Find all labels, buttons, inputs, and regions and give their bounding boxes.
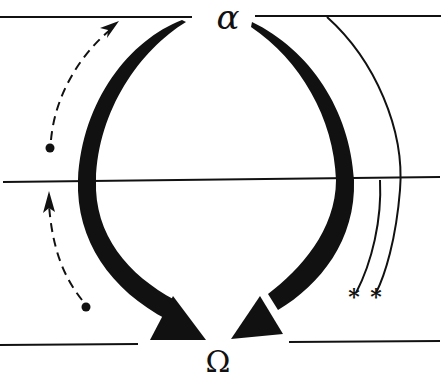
upper-dashed-arrow-head [100,21,119,38]
omega-label: Ω [206,344,231,379]
right-curved-arrow [231,22,354,339]
lower-dashed-arrow-line [49,205,82,300]
inner-asterisk-marker: * [348,283,360,309]
lower-dashed-arrow-origin-dot [82,303,91,312]
alpha-label: α [217,0,240,37]
bottom-line-left [0,344,138,345]
right-arrow-body [251,22,354,310]
inner-path-line [356,180,380,293]
outer-asterisk-marker: * [370,283,382,309]
bottom-line-right [289,341,440,342]
alpha-omega-diagram: α Ω * * [0,0,444,380]
left-arrow-body [78,20,186,320]
middle-level-line [3,177,440,182]
inner-starred-path [356,180,380,293]
upper-dashed-arrow-origin-dot [46,144,55,153]
